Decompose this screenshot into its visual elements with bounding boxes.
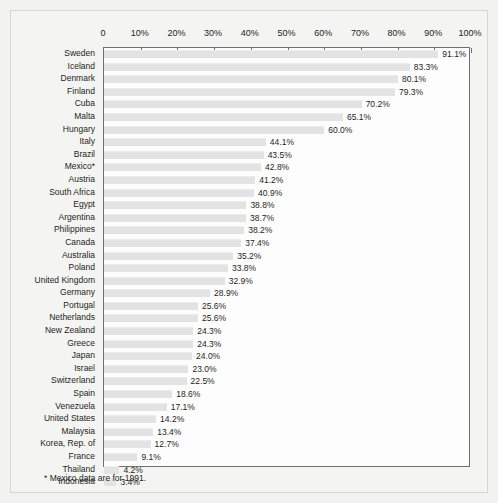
bar-row: 24.3% xyxy=(104,338,469,351)
bar-row: 25.6% xyxy=(104,300,469,313)
bar-row: 24.0% xyxy=(104,350,469,363)
bar-value-label: 79.3% xyxy=(395,86,423,99)
category-label: Spain xyxy=(11,387,99,400)
category-label: Cuba xyxy=(11,97,99,110)
x-axis-tick-label: 100% xyxy=(458,28,481,39)
bar-value-label: 37.4% xyxy=(241,237,269,250)
bar xyxy=(104,63,410,71)
bar-value-label: 9.1% xyxy=(137,451,160,464)
bar xyxy=(104,327,193,335)
bar-row: 13.4% xyxy=(104,426,469,439)
bar-row: 4.2% xyxy=(104,464,469,477)
bar-row: 38.7% xyxy=(104,212,469,225)
bar-value-label: 70.2% xyxy=(362,98,390,111)
category-label: Australia xyxy=(11,249,99,262)
bar-row: 38.8% xyxy=(104,199,469,212)
bar-row: 14.2% xyxy=(104,413,469,426)
bar-row: 24.3% xyxy=(104,325,469,338)
x-axis-tick-label: 50% xyxy=(277,28,295,39)
bar-value-label: 38.7% xyxy=(246,212,274,225)
bar xyxy=(104,453,137,461)
bar xyxy=(104,403,167,411)
bar-value-label: 13.4% xyxy=(153,426,181,439)
x-axis-tick-label: 30% xyxy=(204,28,222,39)
bar-row: 70.2% xyxy=(104,98,469,111)
bar xyxy=(104,50,438,58)
bar-row: 65.1% xyxy=(104,111,469,124)
category-label: Portugal xyxy=(11,299,99,312)
bar-row: 25.6% xyxy=(104,312,469,325)
plot-area: 91.1%83.3%80.1%79.3%70.2%65.1%60.0%44.1%… xyxy=(103,47,470,467)
bar-value-label: 24.3% xyxy=(193,338,221,351)
bar-row: 12.7% xyxy=(104,438,469,451)
bar xyxy=(104,151,264,159)
category-label: Israel xyxy=(11,362,99,375)
bar xyxy=(104,340,193,348)
bar-value-label: 41.2% xyxy=(255,174,283,187)
bar-value-label: 25.6% xyxy=(198,312,226,325)
bar-value-label: 38.8% xyxy=(246,199,274,212)
x-axis-tick-label: 0 xyxy=(100,28,105,39)
x-axis-tick-labels: 010%20%30%40%50%60%70%80%90%100% xyxy=(93,28,480,42)
category-label: United Kingdom xyxy=(11,274,99,287)
bar-row: 60.0% xyxy=(104,124,469,137)
category-label: Switzerland xyxy=(11,374,99,387)
bar xyxy=(104,415,156,423)
category-label: Finland xyxy=(11,85,99,98)
category-label: Sweden xyxy=(11,47,99,60)
bar-value-label: 83.3% xyxy=(410,61,438,74)
category-label: United States xyxy=(11,412,99,425)
bar-row: 3.4% xyxy=(104,476,469,489)
category-label: South Africa xyxy=(11,186,99,199)
bar-row: 22.5% xyxy=(104,375,469,388)
bar-value-label: 14.2% xyxy=(156,413,184,426)
category-label: Japan xyxy=(11,349,99,362)
category-label: Italy xyxy=(11,135,99,148)
chart-footnote: * Mexico data are for 1991. xyxy=(44,472,146,484)
bar-value-label: 32.9% xyxy=(225,275,253,288)
bar-value-label: 44.1% xyxy=(266,136,294,149)
bar xyxy=(104,75,398,83)
bar xyxy=(104,189,254,197)
bar xyxy=(104,365,188,373)
bar-value-label: 43.5% xyxy=(264,149,292,162)
bar-row: 41.2% xyxy=(104,174,469,187)
bar xyxy=(104,226,244,234)
bar-value-label: 38.2% xyxy=(244,224,272,237)
bar-row: 32.9% xyxy=(104,275,469,288)
bar xyxy=(104,239,241,247)
bar-row: 18.6% xyxy=(104,388,469,401)
bar xyxy=(104,277,225,285)
bar xyxy=(104,201,246,209)
bar-row: 9.1% xyxy=(104,451,469,464)
category-label: Argentina xyxy=(11,211,99,224)
bar-row: 79.3% xyxy=(104,86,469,99)
bar xyxy=(104,390,172,398)
category-label: Malta xyxy=(11,110,99,123)
bar-value-label: 80.1% xyxy=(398,73,426,86)
bar xyxy=(104,352,192,360)
bar xyxy=(104,252,233,260)
bar xyxy=(104,88,395,96)
bar xyxy=(104,289,210,297)
category-label: Austria xyxy=(11,173,99,186)
bar-value-label: 33.8% xyxy=(228,262,256,275)
category-label: Hungary xyxy=(11,123,99,136)
x-axis-tick-label: 40% xyxy=(241,28,259,39)
category-label: Netherlands xyxy=(11,311,99,324)
bar-rows: 91.1%83.3%80.1%79.3%70.2%65.1%60.0%44.1%… xyxy=(104,48,469,466)
bar-row: 91.1% xyxy=(104,48,469,61)
bar xyxy=(104,377,187,385)
category-label: France xyxy=(11,450,99,463)
x-axis-tick-label: 10% xyxy=(131,28,149,39)
category-label: Venezuela xyxy=(11,400,99,413)
category-label: Poland xyxy=(11,261,99,274)
bar xyxy=(104,214,246,222)
category-label: Greece xyxy=(11,337,99,350)
bar-value-label: 35.2% xyxy=(233,250,261,263)
bar-value-label: 40.9% xyxy=(254,187,282,200)
bar-row: 40.9% xyxy=(104,187,469,200)
category-label: Philippines xyxy=(11,223,99,236)
x-axis-tick-label: 90% xyxy=(424,28,442,39)
bar-row: 38.2% xyxy=(104,224,469,237)
